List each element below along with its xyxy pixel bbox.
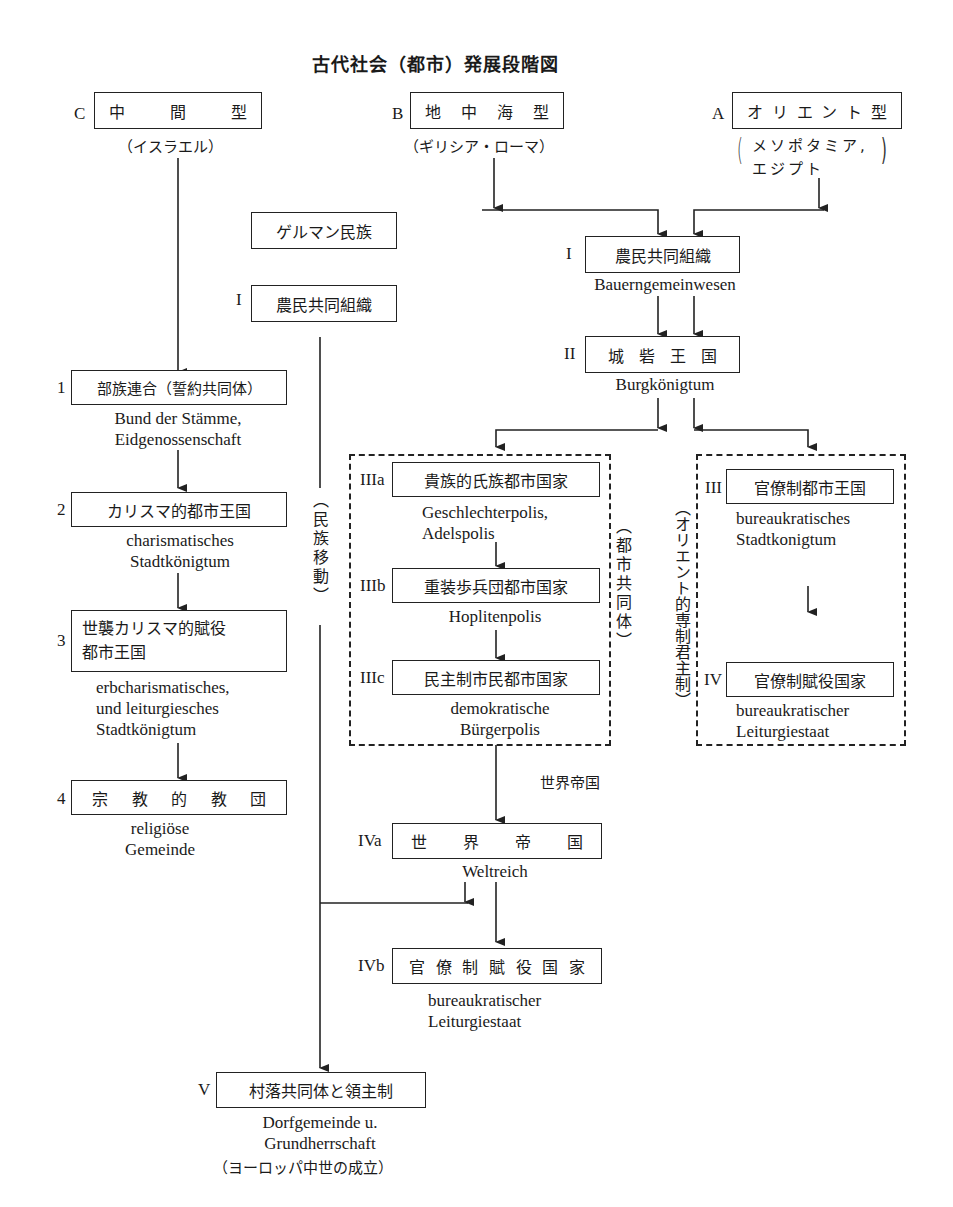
stage-2-num: 2 (57, 500, 66, 520)
stage-4-char: 教 (132, 786, 148, 810)
stage-iv-box: 官僚制賦役国家 (726, 662, 894, 697)
stage-v-de-line: Dorfgemeinde u. (240, 1112, 400, 1133)
stage-3a-de: Geschlechterpolis, Adelspolis (422, 502, 548, 544)
origin-b-char: 地 (425, 99, 441, 123)
stage-3c-box: 民主制市民都市国家 (392, 660, 600, 695)
stage-4a-char: 帝 (515, 829, 531, 853)
stage-2-de-line: Stadtkönigtum (100, 551, 260, 572)
stage-4-char: 宗 (92, 786, 108, 810)
stage-v-note: （ヨーロッパ中世の成立） (213, 1156, 393, 1177)
stage-3-jp-line: 都市王国 (82, 641, 146, 665)
stage-3-de-line: Stadtkönigtum (96, 719, 230, 740)
stage-4a-char: 世 (411, 829, 427, 853)
stage-4b-num: IVb (358, 956, 384, 976)
stage-3-jp-line: 世襲カリスマ的賦役 (82, 617, 226, 641)
stage-4-de-line: Gemeinde (110, 839, 210, 860)
stage-iii-box: 官僚制都市王国 (726, 469, 894, 504)
origin-a-sub-line2: エジプト (752, 157, 824, 178)
stage-iii-num: III (705, 478, 722, 498)
germanic-people-box: ゲルマン民族 (251, 212, 397, 249)
diagram-title: 古代社会（都市）発展段階図 (312, 50, 559, 76)
stage-4-de-line: religiöse (110, 818, 210, 839)
stage-3a-de-line: Adelspolis (422, 523, 548, 544)
origin-a-letter: A (712, 104, 724, 124)
germanic-stage-num: I (236, 290, 242, 310)
stage-2-box: カリスマ的都市王国 (71, 492, 287, 527)
stage-4a-box: 世 界 帝 国 (392, 823, 602, 859)
origin-b-letter: B (392, 104, 403, 124)
stage-4b-char: 官 (409, 954, 425, 978)
stage-iv-de-line: Leiturgiestaat (736, 721, 849, 742)
city-community-label: （都市共同体） (613, 518, 631, 651)
stage-v-box: 村落共同体と領主制 (216, 1072, 426, 1108)
origin-b-sub: （ギリシア・ローマ） (404, 135, 554, 156)
stage-3-box: 世襲カリスマ的賦役 都市王国 (71, 610, 287, 672)
stage-4a-char: 国 (567, 829, 583, 853)
stage-3a-box: 貴族的氏族都市国家 (392, 462, 600, 497)
origin-b-char: 海 (497, 99, 513, 123)
main-stage-1-box: 農民共同組織 (585, 236, 740, 273)
origin-c-letter: C (74, 104, 85, 124)
stage-1-box: 部族連合（誓約共同体） (71, 370, 287, 405)
stage-1-de-line: Bund der Stämme, (96, 408, 260, 429)
stage-4-char: 教 (211, 786, 227, 810)
origin-b-char: 型 (533, 99, 549, 123)
stage-iv-de: bureaukratischer Leiturgiestaat (736, 700, 849, 742)
main-stage-2-num: II (564, 344, 575, 364)
stage-4b-char: 役 (516, 954, 532, 978)
stage-3-num: 3 (57, 631, 66, 651)
stage-3-de-line: erbcharismatisches, (96, 677, 230, 698)
oriental-despotism-label: （オリエント的専制君主制） (672, 500, 690, 708)
stage-4a-char: 界 (463, 829, 479, 853)
main-stage-2-char: 城 (608, 343, 624, 367)
origin-b-box: 地 中 海 型 (410, 92, 564, 129)
origin-a-paren-open: ( (737, 132, 743, 167)
stage-4b-de-line: bureaukratischer (428, 990, 541, 1011)
stage-iii-de-line: bureaukratisches (736, 508, 850, 529)
stage-3b-num: IIIb (360, 576, 385, 596)
stage-iii-de-line: Stadtkonigtum (736, 529, 850, 550)
stage-1-de-line: Eidgenossenschaft (96, 429, 260, 450)
origin-c-char: 間 (170, 99, 186, 123)
stage-iv-num: IV (704, 670, 722, 690)
origin-c-box: 中 間 型 (94, 92, 262, 129)
stage-4-box: 宗 教 的 教 団 (71, 780, 287, 815)
main-stage-2-box: 城 砦 王 国 (585, 336, 740, 373)
stage-4a-num: IVa (358, 831, 382, 851)
stage-iii-de: bureaukratisches Stadtkonigtum (736, 508, 850, 550)
main-stage-2-de: Burgkönigtum (585, 374, 745, 395)
origin-c-char: 中 (109, 99, 125, 123)
stage-v-de-line: Grundherrschaft (240, 1133, 400, 1154)
stage-v-num: V (198, 1080, 210, 1100)
stage-4-char: 団 (250, 786, 266, 810)
main-stage-1-de: Bauerngemeinwesen (565, 274, 765, 295)
main-stage-2-char: 国 (701, 343, 717, 367)
stage-1-num: 1 (57, 378, 66, 398)
origin-a-char: 型 (871, 99, 887, 123)
origin-a-box: オ リ エ ン ト 型 (732, 92, 902, 129)
stage-4b-de: bureaukratischer Leiturgiestaat (428, 990, 541, 1032)
stage-4b-char: 僚 (436, 954, 452, 978)
stage-3c-de: demokratische Bürgerpolis (420, 698, 580, 740)
stage-3-de-line: und leiturgiesches (96, 698, 230, 719)
world-empire-arrow-label: 世界帝国 (540, 771, 600, 792)
stage-v-de: Dorfgemeinde u. Grundherrschaft (240, 1112, 400, 1154)
stage-3c-de-line: demokratische (420, 698, 580, 719)
origin-a-paren-close: ) (881, 132, 887, 167)
origin-b-char: 中 (461, 99, 477, 123)
stage-1-de: Bund der Stämme, Eidgenossenschaft (96, 408, 260, 450)
stage-3c-de-line: Bürgerpolis (420, 719, 580, 740)
stage-2-de: charismatisches Stadtkönigtum (100, 530, 260, 572)
stage-3-de: erbcharismatisches, und leiturgiesches S… (96, 677, 230, 740)
migration-label: （民族移動） (310, 492, 328, 606)
stage-3a-num: IIIa (360, 470, 385, 490)
stage-3c-num: IIIc (360, 668, 385, 688)
main-stage-1-num: I (566, 244, 572, 264)
origin-c-sub: （イスラエル） (118, 135, 223, 156)
stage-4b-de-line: Leiturgiestaat (428, 1011, 541, 1032)
stage-3b-de: Hoplitenpolis (420, 606, 570, 627)
stage-3a-de-line: Geschlechterpolis, (422, 502, 548, 523)
stage-4b-box: 官 僚 制 賦 役 国 家 (392, 948, 602, 984)
stage-4b-char: 国 (542, 954, 558, 978)
stage-2-de-line: charismatisches (100, 530, 260, 551)
